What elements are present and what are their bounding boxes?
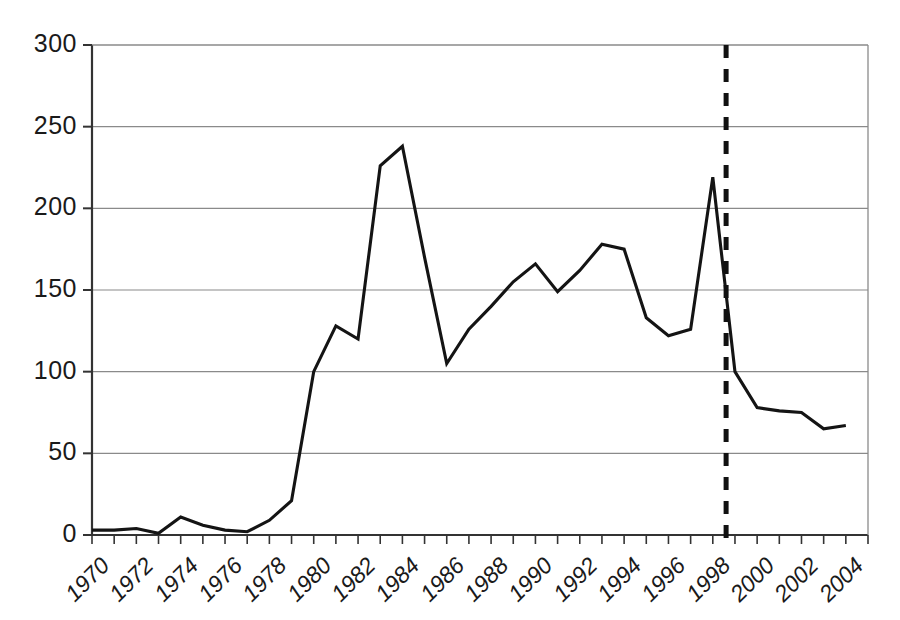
data-series-line xyxy=(92,146,846,533)
y-axis-tick-label: 250 xyxy=(5,111,77,140)
x-axis-ticks-group xyxy=(92,535,868,544)
y-axis-tick-label: 200 xyxy=(5,192,77,221)
gridlines-group xyxy=(92,45,868,453)
chart-container: 050100150200250300 197019721974197619781… xyxy=(0,0,900,620)
y-axis-tick-label: 300 xyxy=(5,29,77,58)
chart-plot-svg xyxy=(0,0,900,620)
data-line-group xyxy=(92,146,846,533)
y-axis-tick-label: 50 xyxy=(5,437,77,466)
y-axis-tick-label: 150 xyxy=(5,274,77,303)
y-axis-tick-label: 0 xyxy=(5,519,77,548)
y-axis-tick-label: 100 xyxy=(5,356,77,385)
